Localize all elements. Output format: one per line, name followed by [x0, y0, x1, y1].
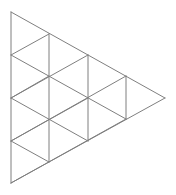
- triangular-lattice-figure: [0, 0, 176, 195]
- figure-canvas: [0, 0, 176, 195]
